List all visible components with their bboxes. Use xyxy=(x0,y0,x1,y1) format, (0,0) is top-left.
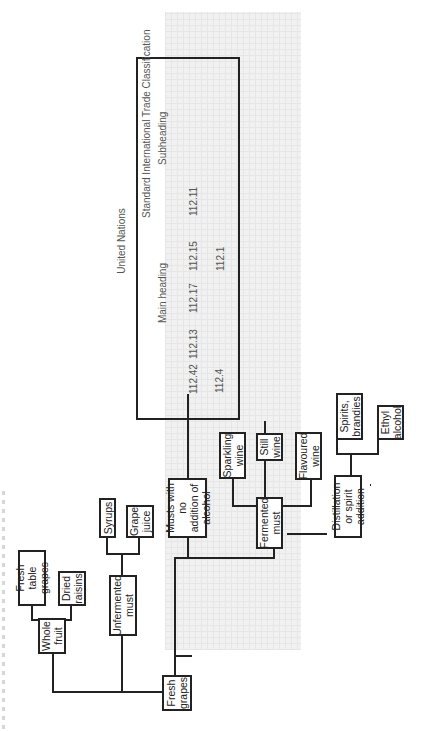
screen-layer xyxy=(0,0,433,731)
